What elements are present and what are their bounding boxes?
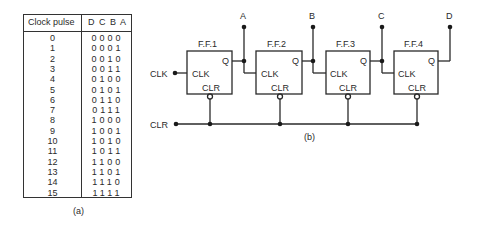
output-d-dot	[448, 25, 453, 30]
ff1-q-label: Q	[222, 56, 229, 66]
ff4-name: F.F.4	[404, 39, 423, 49]
ff3-clr-label: CLR	[339, 83, 358, 93]
output-a-label: A	[240, 11, 246, 21]
ff2-q-label: Q	[292, 56, 299, 66]
ff2-clk-label: CLK	[261, 69, 279, 79]
ripple-counter-circuit: CLK CLR (b) A B C D F.F.1 F.F.2 F.F.3 F.…	[0, 0, 477, 228]
ff3-clr-bubble	[346, 94, 351, 99]
clr-input-label: CLR	[150, 120, 169, 130]
ff1-clk-label: CLK	[192, 69, 210, 79]
ff4-clr-bubble	[415, 94, 420, 99]
caption-b: (b)	[304, 132, 315, 142]
ff2-clr-bubble	[278, 94, 283, 99]
clr-input-dot	[174, 122, 179, 127]
output-d-label: D	[446, 11, 453, 21]
ff4-q-label: Q	[428, 56, 435, 66]
ff1-clr-label: CLR	[202, 83, 221, 93]
ff3-name: F.F.3	[336, 39, 355, 49]
ff4-clr-label: CLR	[408, 83, 427, 93]
ff3-clk-label: CLK	[330, 69, 348, 79]
ff4-clk-label: CLK	[398, 69, 416, 79]
output-b-dot	[311, 25, 316, 30]
output-a-dot	[242, 25, 247, 30]
output-c-dot	[380, 25, 385, 30]
output-b-label: B	[309, 11, 315, 21]
ff2-name: F.F.2	[267, 39, 286, 49]
clk-input-dot	[173, 71, 178, 76]
ff1-clr-bubble	[208, 94, 213, 99]
ff2-clr-label: CLR	[271, 83, 290, 93]
ff1-name: F.F.1	[198, 39, 217, 49]
output-c-label: C	[378, 11, 385, 21]
ff3-q-label: Q	[360, 56, 367, 66]
clk-input-label: CLK	[150, 69, 168, 79]
